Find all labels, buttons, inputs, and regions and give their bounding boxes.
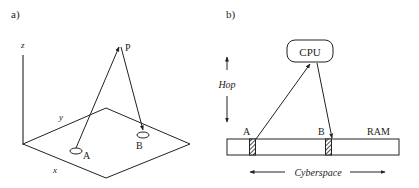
point-a-label: A: [83, 150, 91, 161]
point-b-marker: [137, 132, 149, 138]
panel-b: b) CPU Hop A B RAM Cyberspace: [217, 8, 399, 178]
point-b-label: B: [136, 140, 143, 151]
x-axis-label: x: [52, 165, 57, 175]
panel-a: a) z y x A B P: [11, 8, 190, 178]
ram-point-a-label: A: [243, 126, 251, 137]
ram-cell-b: [326, 139, 332, 155]
cyberspace-label: Cyberspace: [294, 167, 342, 178]
ram-point-b-label: B: [318, 126, 325, 137]
ram-label: RAM: [367, 126, 390, 137]
hop-label: Hop: [217, 79, 235, 90]
panel-b-label: b): [226, 8, 236, 21]
path-p-to-b: [121, 47, 143, 130]
z-axis-label: z: [20, 40, 25, 50]
point-a-marker: [70, 148, 82, 154]
y-axis-label: y: [58, 112, 63, 122]
ram-cell-a: [250, 139, 256, 155]
cpu-label: CPU: [299, 46, 320, 58]
xy-plane: [23, 108, 190, 178]
diagram-canvas: a) z y x A B P b) CPU Hop A B RA: [0, 0, 419, 188]
path-a-to-cpu: [256, 64, 310, 139]
panel-a-label: a): [11, 8, 20, 21]
point-p-label: P: [125, 42, 131, 53]
path-a-to-p: [76, 47, 119, 148]
